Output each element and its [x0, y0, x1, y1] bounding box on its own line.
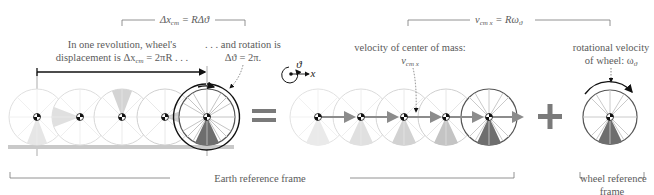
earth-frame-label: Earth reference frame — [172, 172, 348, 185]
velocity-cm-caption: velocity of center of mass: — [340, 41, 480, 54]
revolution-caption: In one revolution, wheel's displacement … — [52, 38, 192, 68]
rotation-line-2: Δϑ = 2π. — [200, 51, 286, 64]
translating-wheels — [290, 89, 522, 146]
x-axis-label: x — [309, 67, 317, 80]
rot-prefix: of wheel: ω — [585, 55, 634, 66]
velocity-cm-symbol: vcm x — [395, 54, 425, 71]
rot-sub: ϑ — [634, 60, 637, 68]
rotation-caption: . . . and rotation is Δϑ = 2π. — [200, 38, 286, 64]
vcm-sub: cm x — [406, 60, 419, 68]
rotation-pointer — [230, 65, 243, 88]
revolution-line-2: displacement is Δxcm = 2πR . . . — [52, 51, 192, 68]
eq-right-sub2: ϑ — [519, 19, 522, 27]
equation-velocity: vcm x = Rωϑ — [472, 14, 525, 29]
rotational-line-2: of wheel: ωϑ — [570, 54, 652, 71]
revolution-line-1: In one revolution, wheel's — [52, 38, 192, 51]
rotation-line-1: . . . and rotation is — [200, 38, 286, 51]
ground-surface — [8, 145, 234, 149]
rotating-wheel — [583, 82, 637, 145]
rev-rest: = 2πR . . . — [144, 52, 188, 63]
eq-left-rest: = RΔϑ — [179, 14, 209, 25]
rotational-velocity-caption: rotational velocity of wheel: ωϑ — [570, 41, 652, 71]
equals-operator — [252, 109, 276, 122]
eq-left-sub: cm — [171, 19, 179, 27]
diagram-canvas — [0, 0, 654, 195]
eq-right-rest: = Rω — [493, 14, 519, 25]
wheel-frame-line-2: frame — [580, 185, 644, 195]
wheel-frame-line-1: wheel reference — [580, 172, 644, 185]
rev-prefix: displacement is Δx — [56, 52, 136, 63]
theta-label: ϑ — [294, 58, 304, 71]
plus-operator — [538, 104, 562, 129]
eq-right-sub: cm x — [480, 19, 493, 27]
rotational-line-1: rotational velocity — [570, 41, 652, 54]
rev-sub: cm — [136, 57, 144, 65]
wheel-frame-label: wheel reference frame — [580, 172, 644, 195]
eq-left-prefix: Δx — [160, 14, 171, 25]
equation-displacement: Δxcm = RΔϑ — [157, 14, 212, 29]
